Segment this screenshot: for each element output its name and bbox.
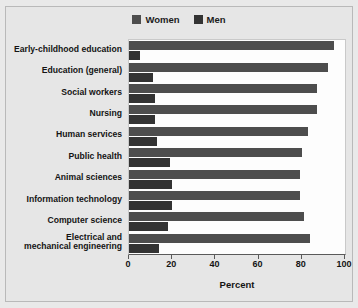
bar-group	[129, 127, 345, 146]
category-label: Nursing	[90, 109, 122, 119]
chart-legend: WomenMen	[6, 15, 352, 25]
legend-entry-women[interactable]: Women	[132, 15, 179, 25]
bar-women[interactable]	[129, 212, 304, 221]
bar-group	[129, 234, 345, 253]
plot-area	[128, 39, 346, 255]
category-label: Electrical andmechanical engineering	[24, 233, 122, 252]
category-label: Computer science	[47, 216, 122, 226]
bar-men[interactable]	[129, 222, 168, 231]
bar-men[interactable]	[129, 244, 159, 253]
bar-women[interactable]	[129, 148, 302, 157]
bar-group	[129, 41, 345, 60]
category-label-row: Information technology	[8, 189, 126, 210]
legend-swatch-icon	[132, 15, 141, 24]
category-label: Human services	[56, 130, 122, 140]
bar-women[interactable]	[129, 105, 317, 114]
bar-women[interactable]	[129, 170, 300, 179]
bar-women[interactable]	[129, 234, 310, 243]
legend-label: Men	[207, 15, 226, 25]
x-tick-label: 60	[253, 260, 263, 269]
x-axis: 020406080100	[128, 255, 346, 279]
category-label-row: Nursing	[8, 103, 126, 124]
category-label-row: Education (general)	[8, 60, 126, 81]
x-tick-label: 40	[209, 260, 219, 269]
chart-figure: WomenMen Early-childhood educationEducat…	[5, 6, 353, 302]
category-label-row: Electrical andmechanical engineering	[8, 232, 126, 253]
bar-group	[129, 63, 345, 82]
category-label: Public health	[69, 152, 122, 162]
category-label: Education (general)	[42, 66, 122, 76]
category-label: Animal sciences	[55, 173, 122, 183]
bar-group	[129, 170, 345, 189]
bar-group	[129, 148, 345, 167]
x-axis-title: Percent	[128, 279, 346, 290]
category-label-row: Human services	[8, 125, 126, 146]
bar-women[interactable]	[129, 63, 328, 72]
bar-men[interactable]	[129, 115, 155, 124]
bar-group	[129, 105, 345, 124]
category-label-row: Early-childhood education	[8, 39, 126, 60]
x-tick-label: 80	[296, 260, 306, 269]
category-label: Social workers	[61, 88, 122, 98]
bar-men[interactable]	[129, 158, 170, 167]
bar-women[interactable]	[129, 84, 317, 93]
bar-men[interactable]	[129, 137, 157, 146]
category-label: Information technology	[27, 195, 122, 205]
legend-entry-men[interactable]: Men	[194, 15, 226, 25]
legend-swatch-icon	[194, 15, 203, 24]
bar-group	[129, 84, 345, 103]
category-label-row: Public health	[8, 146, 126, 167]
category-label: Early-childhood education	[14, 45, 122, 55]
bar-women[interactable]	[129, 191, 300, 200]
bar-men[interactable]	[129, 73, 153, 82]
bar-women[interactable]	[129, 41, 334, 50]
x-tick-label: 20	[166, 260, 176, 269]
x-tick-label: 100	[336, 260, 351, 269]
bar-group	[129, 191, 345, 210]
bar-men[interactable]	[129, 94, 155, 103]
legend-label: Women	[145, 15, 179, 25]
category-axis-labels: Early-childhood educationEducation (gene…	[8, 39, 126, 255]
category-label-row: Animal sciences	[8, 167, 126, 188]
x-tick-label: 0	[125, 260, 130, 269]
bar-group	[129, 212, 345, 231]
category-label-row: Computer science	[8, 210, 126, 231]
bar-men[interactable]	[129, 51, 140, 60]
bar-men[interactable]	[129, 180, 172, 189]
category-label-row: Social workers	[8, 82, 126, 103]
bar-men[interactable]	[129, 201, 172, 210]
bar-women[interactable]	[129, 127, 308, 136]
